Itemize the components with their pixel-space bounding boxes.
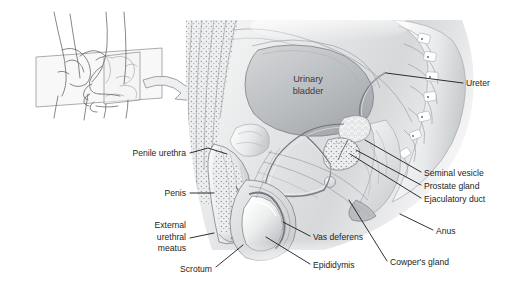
label-prostate-gland: Prostate gland [424, 181, 480, 191]
label-anus: Anus [436, 226, 456, 236]
top-highlight [250, 10, 410, 42]
sagittal-plane-rect-2 [104, 52, 140, 104]
label-epididymis: Epididymis [313, 260, 355, 270]
label-seminal-vesicle: Seminal vesicle [424, 168, 484, 178]
label-penis: Penis [165, 188, 187, 198]
label-ejaculatory-duct: Ejaculatory duct [424, 194, 486, 204]
label-ureter: Ureter [466, 78, 490, 88]
sagittal-anatomy-illustration [186, 10, 491, 284]
label-cowpers-gland: Cowper's gland [390, 257, 449, 267]
label-external-urethral-meatus: Externalurethralmeatus [154, 220, 186, 253]
label-penile-urethra: Penile urethra [132, 148, 186, 158]
anatomy-figure: Penile urethraPenisExternalurethralmeatu… [0, 0, 515, 285]
label-vas-deferens: Vas deferens [313, 232, 363, 242]
sagittal-plane-rect-1 [36, 48, 162, 107]
label-scrotum: Scrotum [180, 264, 212, 274]
